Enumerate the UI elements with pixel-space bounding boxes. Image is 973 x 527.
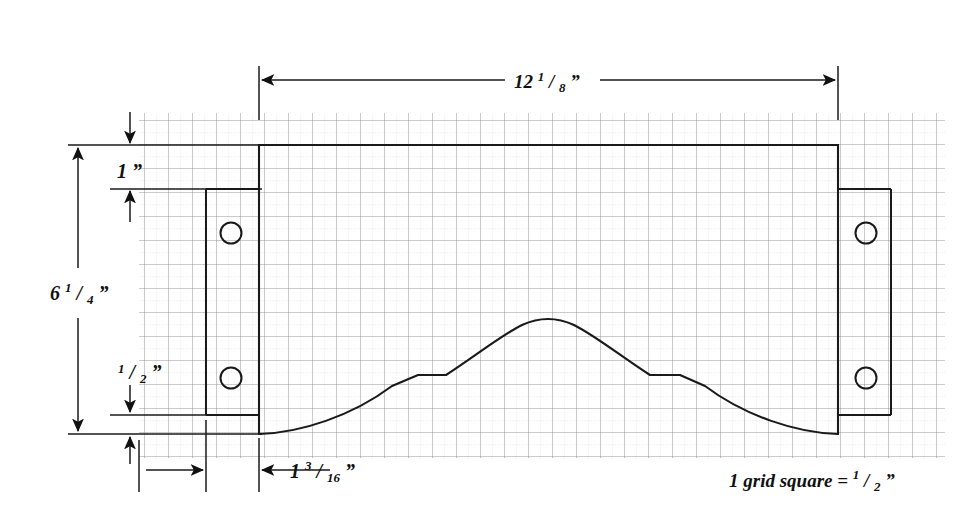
grid-legend-label: 1 grid square = 1 / 2 ” [729,462,895,495]
dimension-overall-width: 12 1 / 8 ” [262,64,835,96]
technical-drawing-canvas: 12 1 / 8 ” 6 1 / 4 ” 1 ” [0,0,973,527]
grid-legend: 1 grid square = 1 / 2 ” [729,462,895,495]
dimension-overall-height: 6 1 / 4 ” [50,148,109,431]
dimension-label-overall-width: 12 1 / 8 ” [514,64,580,96]
drawing-svg: 12 1 / 8 ” 6 1 / 4 ” 1 ” [0,0,973,527]
dimension-label-overall-height: 6 1 / 4 ” [50,274,109,308]
dimension-top-offset: 1 ” [117,112,142,222]
dimension-label-top-offset: 1 ” [117,160,142,182]
